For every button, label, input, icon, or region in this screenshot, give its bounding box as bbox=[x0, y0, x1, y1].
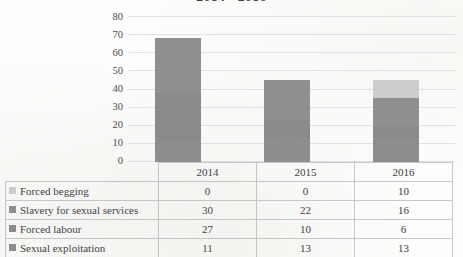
legend-swatch-icon bbox=[9, 225, 16, 232]
cell-slavery-2015: 22 bbox=[257, 201, 355, 220]
bar-segment-slavery-for-sexual-services-2016 bbox=[373, 98, 419, 127]
y-axis-tick-20: 20 bbox=[83, 120, 123, 131]
legend-row-forced-labour: Forced labour bbox=[6, 220, 159, 239]
legend-swatch-icon bbox=[9, 206, 16, 213]
chart-plot-region: 80 70 60 50 40 30 20 10 0 bbox=[0, 0, 463, 163]
bar-segment-forced-labour-2016 bbox=[373, 127, 419, 138]
table-row: Slavery for sexual services 30 22 16 bbox=[6, 201, 453, 220]
table-row: Sexual exploitation 11 13 13 bbox=[6, 239, 453, 257]
y-axis-tick-80: 80 bbox=[83, 12, 123, 23]
table-header-row: 2014 2015 2016 bbox=[6, 163, 453, 182]
bar-segment-forced-labour-2014 bbox=[155, 93, 201, 142]
table-header-2014: 2014 bbox=[159, 163, 257, 182]
cell-forced-labour-2014: 27 bbox=[159, 220, 257, 239]
legend-row-slavery-for-sexual-services: Slavery for sexual services bbox=[6, 201, 159, 220]
bar-segment-slavery-for-sexual-services-2015 bbox=[264, 80, 310, 120]
bar-segment-forced-begging-2016 bbox=[373, 80, 419, 98]
table-row: Forced begging 0 0 10 bbox=[6, 182, 453, 201]
gridline-80 bbox=[128, 16, 455, 17]
bar-2016 bbox=[373, 80, 419, 162]
cell-sexual-exploitation-2016: 13 bbox=[355, 239, 453, 257]
y-axis-tick-40: 40 bbox=[83, 84, 123, 95]
cell-forced-begging-2014: 0 bbox=[159, 182, 257, 201]
cell-sexual-exploitation-2015: 13 bbox=[257, 239, 355, 257]
y-axis-tick-60: 60 bbox=[83, 48, 123, 59]
y-axis-tick-30: 30 bbox=[83, 102, 123, 113]
y-axis-tick-70: 70 bbox=[83, 30, 123, 41]
y-axis-tick-50: 50 bbox=[83, 66, 123, 77]
bar-segment-sexual-exploitation-2016 bbox=[373, 138, 419, 162]
table-header-2015: 2015 bbox=[257, 163, 355, 182]
cell-forced-begging-2015: 0 bbox=[257, 182, 355, 201]
legend-swatch-icon bbox=[9, 187, 16, 194]
legend-row-sexual-exploitation: Sexual exploitation bbox=[6, 239, 159, 257]
cell-forced-labour-2016: 6 bbox=[355, 220, 453, 239]
cell-slavery-2016: 16 bbox=[355, 201, 453, 220]
cell-slavery-2014: 30 bbox=[159, 201, 257, 220]
cell-forced-labour-2015: 10 bbox=[257, 220, 355, 239]
data-table: 2014 2015 2016 Forced begging 0 0 10 Sla… bbox=[5, 162, 453, 257]
table-corner-cell bbox=[6, 163, 159, 182]
legend-row-forced-begging: Forced begging bbox=[6, 182, 159, 201]
table-row: Forced labour 27 10 6 bbox=[6, 220, 453, 239]
bar-2015 bbox=[264, 80, 310, 162]
chart-screenshot: 2014 - 2016 80 70 60 50 40 30 20 10 0 bbox=[0, 0, 463, 257]
legend-label-slavery-for-sexual-services: Slavery for sexual services bbox=[20, 204, 138, 216]
bar-segment-forced-labour-2015 bbox=[264, 120, 310, 138]
bar-segment-slavery-for-sexual-services-2014 bbox=[155, 38, 201, 93]
table-header-2016: 2016 bbox=[355, 163, 453, 182]
bar-segment-sexual-exploitation-2015 bbox=[264, 138, 310, 162]
cell-forced-begging-2016: 10 bbox=[355, 182, 453, 201]
legend-label-forced-begging: Forced begging bbox=[20, 185, 89, 197]
bar-segment-sexual-exploitation-2014 bbox=[155, 142, 201, 162]
plot-area bbox=[128, 16, 455, 162]
legend-label-sexual-exploitation: Sexual exploitation bbox=[20, 242, 105, 254]
gridline-70 bbox=[128, 34, 455, 35]
legend-label-forced-labour: Forced labour bbox=[20, 223, 81, 235]
cell-sexual-exploitation-2014: 11 bbox=[159, 239, 257, 257]
bar-2014 bbox=[155, 38, 201, 162]
y-axis-tick-10: 10 bbox=[83, 138, 123, 149]
legend-swatch-icon bbox=[9, 244, 16, 251]
